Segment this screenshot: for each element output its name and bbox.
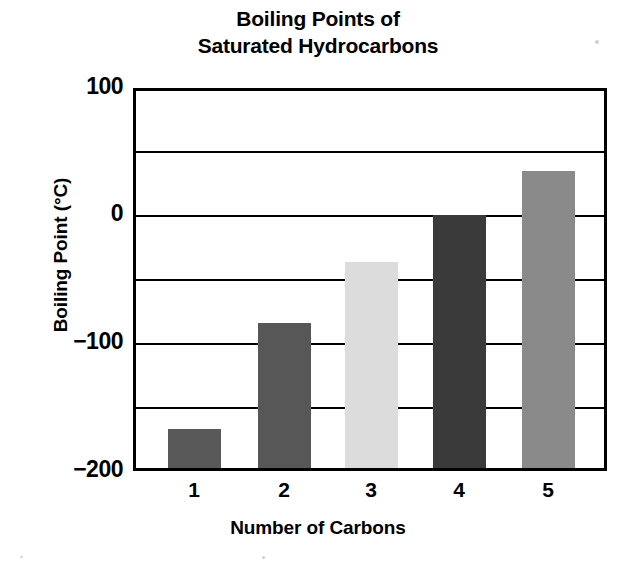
x-axis-tick-labels: 1 2 3 4 5 [133,478,607,508]
scan-speck [262,556,265,559]
x-tick-label-1: 1 [164,478,224,502]
x-tick-label-2: 2 [254,478,314,502]
y-tick-label-minus-200: −200 [5,456,123,483]
x-tick-label-3: 3 [341,478,401,502]
y-tick-label-100: 100 [5,73,123,100]
y-tick-label-0: 0 [5,200,123,227]
bar-carbon-5 [522,171,575,468]
gridline-50 [136,151,604,153]
bar-chart-figure: Boiling Points of Saturated Hydrocarbons… [0,0,636,576]
bar-carbon-4 [433,215,486,468]
bar-carbon-3 [345,262,398,468]
plot-inner [136,91,604,468]
x-tick-label-4: 4 [429,478,489,502]
plot-area [133,88,607,471]
scan-speck [20,556,23,558]
bar-carbon-2 [258,323,311,468]
bar-carbon-1 [168,429,221,468]
x-tick-label-5: 5 [518,478,578,502]
scan-speck [595,40,599,44]
x-axis-title: Number of Carbons [0,517,636,539]
y-tick-label-minus-100: −100 [5,328,123,355]
